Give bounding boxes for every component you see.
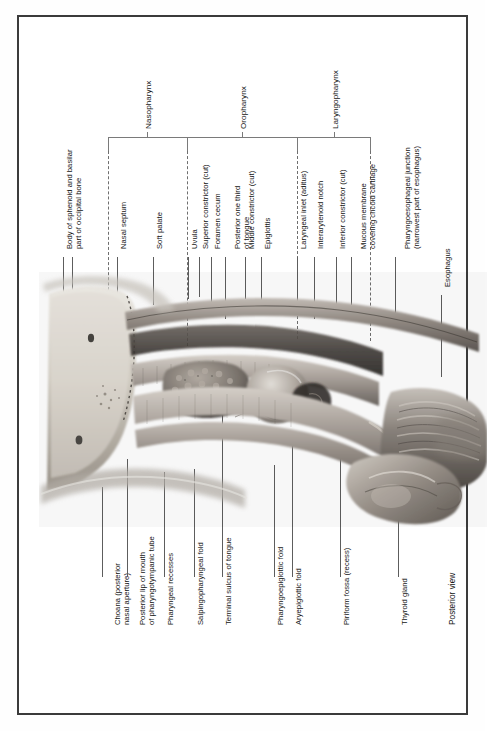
label-text: Piriform fossa (recess): [342, 548, 351, 625]
label-posterior-lip-pharyngotympanic-tube: Posterior lip of mouth of pharyngotympan…: [139, 536, 156, 625]
label-text: Nasal septum: [119, 202, 128, 249]
label-text: Posterior lip of mouth of pharyngotympan…: [138, 536, 156, 625]
label-epiglottis: Epiglottis: [264, 218, 273, 249]
label-text: Middle constrictor (cut): [247, 171, 256, 249]
bracket-tick-oropharynx: [242, 132, 243, 137]
label-text: Foramen cecum: [213, 193, 222, 249]
label-text: Epiglottis: [263, 218, 272, 249]
label-laryngeal-inlet: Laryngeal inlet (aditus): [300, 171, 309, 249]
label-text: Interarytenoid notch: [316, 181, 325, 249]
label-middle-constrictor: Middle constrictor (cut): [248, 171, 257, 249]
label-terminal-sulcus-of-tongue: Terminal sulcus of tongue: [225, 537, 234, 625]
label-soft-palate: Soft palate: [156, 212, 165, 249]
label-choana: Choana (posterior nasal aperture): [114, 563, 131, 625]
bracket-tick-nasopharynx: [147, 132, 148, 137]
label-thyroid-gland: Thyroid gland: [401, 578, 410, 625]
label-pharyngoepiglottic-fold: Pharyngoepiglottic fold: [277, 547, 286, 625]
label-text: Aryepiglottic fold: [294, 568, 303, 625]
label-body-of-sphenoid: Body of sphenoid and basilar part of occ…: [66, 149, 83, 249]
bracket-laryngopharynx: [297, 137, 371, 151]
label-text: Soft palate: [155, 212, 164, 249]
label-foramen-cecum: Foramen cecum: [214, 193, 223, 249]
label-inferior-constrictor: Inferior constrictor (cut): [339, 169, 348, 249]
label-interarytenoid-notch: Interarytenoid notch: [317, 181, 326, 249]
bracket-nasopharynx: [108, 137, 188, 151]
label-pharyngoesophageal-junction: Pharyngoesophageal junction (narrowest p…: [404, 146, 421, 249]
label-text: Salpingopharyngeal fold: [196, 542, 205, 625]
label-text: Laryngeal inlet (aditus): [299, 171, 308, 249]
label-text: Superior constrictor (cut): [201, 164, 210, 249]
view-caption: Posterior view: [449, 573, 458, 625]
region-label-laryngopharynx: Laryngopharynx: [332, 70, 341, 129]
label-piriform-fossa: Piriform fossa (recess): [343, 548, 352, 625]
label-uvula: Uvula: [191, 229, 200, 249]
label-text: Uvula: [190, 229, 199, 249]
label-text: Body of sphenoid and basilar part of occ…: [65, 149, 83, 249]
label-text: Inferior constrictor (cut): [338, 169, 347, 249]
label-pharyngeal-recesses: Pharyngeal recesses: [167, 553, 176, 625]
label-text: Thyroid gland: [400, 578, 409, 625]
anatomical-illustration: [39, 272, 487, 527]
label-aryepiglottic-fold: Aryepiglottic fold: [295, 568, 304, 625]
region-label-oropharynx: Oropharynx: [240, 86, 249, 129]
label-text: Mucous membrane covering cricoid cartila…: [359, 164, 377, 249]
page-border: Nasopharynx Oropharynx Laryngopharynx Bo…: [17, 15, 468, 715]
label-nasal-septum: Nasal septum: [120, 202, 129, 249]
label-mucous-membrane-cricoid: Mucous membrane covering cricoid cartila…: [360, 164, 377, 249]
label-salpingopharyngeal-fold: Salpingopharyngeal fold: [197, 542, 206, 625]
label-text: Pharyngeal recesses: [166, 553, 175, 625]
bracket-tick-laryngopharynx: [334, 132, 335, 137]
label-text: Pharyngoesophageal junction (narrowest p…: [403, 146, 421, 249]
label-superior-constrictor: Superior constrictor (cut): [202, 164, 211, 249]
bracket-oropharynx: [187, 137, 298, 151]
region-label-nasopharynx: Nasopharynx: [145, 81, 154, 129]
label-text: Terminal sulcus of tongue: [224, 537, 233, 625]
label-text: Pharyngoepiglottic fold: [276, 547, 285, 625]
